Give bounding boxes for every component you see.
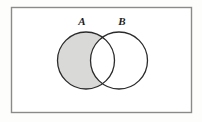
venn-diagram-canvas: A B: [0, 0, 202, 122]
venn-diagram-figure: A B: [0, 0, 202, 122]
set-label-b: B: [117, 15, 125, 27]
set-label-a: A: [77, 15, 85, 27]
